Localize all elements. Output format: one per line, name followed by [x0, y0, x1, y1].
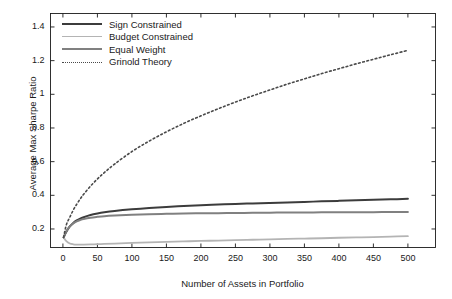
chart-legend: Sign ConstrainedBudget ConstrainedEqual … — [62, 18, 193, 68]
x-tick-label: 300 — [255, 253, 285, 263]
x-tick-label: 100 — [117, 253, 147, 263]
y-tick-label: 0.2 — [15, 223, 45, 233]
legend-item: Budget Constrained — [62, 31, 193, 44]
legend-item: Grinold Theory — [62, 56, 193, 69]
legend-label: Equal Weight — [109, 45, 165, 55]
y-tick-label: 0.8 — [15, 122, 45, 132]
sharpe-ratio-chart: Average Max Sharpe Ratio Number of Asset… — [0, 0, 452, 299]
x-tick-label: 400 — [324, 253, 354, 263]
y-tick-label: 0.4 — [15, 189, 45, 199]
x-tick-label: 250 — [220, 253, 250, 263]
legend-item: Sign Constrained — [62, 18, 193, 31]
legend-swatch-grinold-theory — [62, 62, 102, 63]
legend-item: Equal Weight — [62, 43, 193, 56]
x-tick-label: 350 — [289, 253, 319, 263]
legend-swatch-sign-constrained — [62, 23, 102, 25]
legend-label: Budget Constrained — [109, 32, 193, 42]
y-tick-label: 1 — [15, 88, 45, 98]
x-tick-label: 0 — [48, 253, 78, 263]
y-tick-label: 1.4 — [15, 21, 45, 31]
x-tick-label: 150 — [151, 253, 181, 263]
legend-label: Grinold Theory — [109, 57, 172, 67]
y-tick-label: 1.2 — [15, 55, 45, 65]
x-axis-title: Number of Assets in Portfolio — [50, 278, 435, 289]
x-tick-label: 500 — [393, 253, 423, 263]
y-tick-label: 0.6 — [15, 156, 45, 166]
x-tick-label: 200 — [186, 253, 216, 263]
x-tick-label: 450 — [358, 253, 388, 263]
legend-swatch-equal-weight — [62, 48, 102, 50]
legend-swatch-budget-constrained — [62, 36, 102, 37]
legend-label: Sign Constrained — [109, 20, 182, 30]
x-tick-label: 50 — [82, 253, 112, 263]
